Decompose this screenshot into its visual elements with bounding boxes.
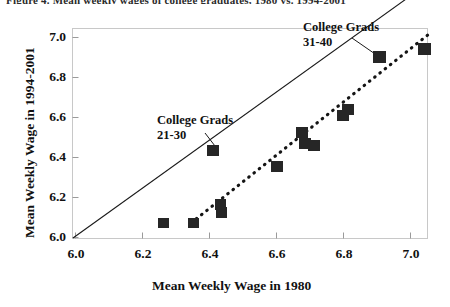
data-point (308, 140, 320, 151)
data-point (342, 104, 354, 115)
data-point (188, 218, 199, 228)
x-tick-label: 6.6 (259, 246, 295, 262)
annotation-college-grads-31-40: College Grads 31-40 (303, 20, 379, 51)
x-tick-label: 6.2 (125, 246, 161, 262)
x-axis-title: Mean Weekly Wage in 1980 (152, 278, 311, 294)
annotation-college-grads-21-30: College Grads 21-30 (157, 113, 233, 144)
y-tick-label: 7.0 (30, 29, 66, 45)
annotation-line-1: College Grads (303, 20, 379, 35)
x-tick-label: 6.4 (192, 246, 228, 262)
y-axis-title: Mean Weekly Wage in 1994-2001 (22, 47, 38, 238)
data-point (418, 43, 431, 55)
data-point (216, 207, 227, 218)
data-point (158, 218, 169, 228)
data-point (207, 145, 219, 156)
x-tick-label: 6.8 (326, 246, 362, 262)
annotation-line-2: 31-40 (303, 35, 379, 50)
x-tick-label: 7.0 (393, 246, 429, 262)
x-tick-label: 6.0 (58, 246, 94, 262)
data-point (296, 127, 308, 138)
annotation-line-2: 21-30 (157, 128, 233, 143)
data-point (271, 161, 283, 172)
data-point (373, 51, 386, 63)
annotation-line-1: College Grads (157, 113, 233, 128)
